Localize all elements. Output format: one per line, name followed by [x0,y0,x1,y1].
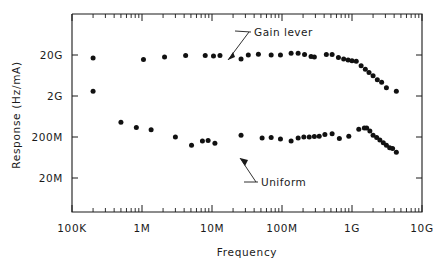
data-point [346,134,351,139]
data-point [379,80,384,85]
data-point [239,56,244,61]
data-point [296,135,301,140]
data-point [212,141,217,146]
x-tick-label: 1M [134,222,151,234]
series-gain-lever-points [91,51,399,94]
data-point [289,51,294,56]
data-point [356,127,361,132]
data-point [278,53,283,58]
response-vs-frequency-chart: 100K1M10M100M1G10G 20G2G200M20M Gain lev… [0,0,439,273]
data-point [336,55,341,60]
data-point [359,63,364,68]
data-point [118,120,123,125]
data-point [149,127,154,132]
data-point [367,129,372,134]
data-point [239,133,244,138]
data-point [330,131,335,136]
data-point [206,138,211,143]
y-axis-tick-labels: 20G2G200M20M [31,49,63,184]
data-point [211,53,216,58]
x-axis-title: Frequency [217,246,278,258]
y-tick-label: 2G [47,90,63,102]
data-point [91,89,96,94]
data-point [312,54,317,59]
data-point [367,70,372,75]
gain-lever-arrowhead [228,52,235,60]
x-tick-label: 100M [266,222,298,234]
data-point [330,52,335,57]
y-axis-title: Response (Hz/mA) [10,61,22,169]
data-point [324,52,329,57]
data-point [189,143,194,148]
data-point [307,135,312,140]
series-uniform-points [91,89,399,155]
data-point [394,89,399,94]
y-tick-label: 200M [31,131,63,143]
data-point [269,53,274,58]
y-tick-label: 20M [39,172,63,184]
data-point [203,53,208,58]
data-point [394,150,399,155]
data-point [375,77,380,82]
data-point [278,136,283,141]
x-axis-tick-labels: 100K1M10M100M1G10G [57,222,433,234]
data-point [302,52,307,57]
x-tick-label: 1G [344,222,360,234]
data-point [183,53,188,58]
data-point [371,73,376,78]
data-point [301,135,306,140]
data-point [256,52,261,57]
data-point [354,59,359,64]
data-point [246,53,251,58]
data-point [384,85,389,90]
data-point [162,54,167,59]
data-point [317,134,322,139]
data-point [91,55,96,60]
data-point [134,125,139,130]
x-tick-label: 10M [200,222,224,234]
data-point [200,138,205,143]
data-point [173,135,178,140]
data-point [341,56,346,61]
data-point [269,135,274,140]
data-point [141,57,146,62]
annotation-uniform: Uniform [240,158,306,188]
data-point [260,135,265,140]
data-point [217,53,222,58]
data-point [312,134,317,139]
data-point [289,138,294,143]
data-point [322,132,327,137]
x-tick-label: 10G [410,222,433,234]
y-tick-label: 20G [40,49,63,61]
data-point [337,136,342,141]
data-point [350,58,355,63]
x-tick-label: 100K [57,222,87,234]
data-point [390,146,395,151]
gain-lever-label: Gain lever [254,26,313,38]
data-point [296,51,301,56]
uniform-label: Uniform [261,176,306,188]
